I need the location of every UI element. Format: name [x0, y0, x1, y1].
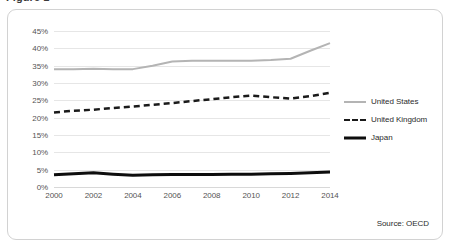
y-tick-label: 30%	[32, 79, 48, 88]
y-axis-labels: 0%5%10%15%20%25%30%35%40%45%	[8, 31, 52, 187]
legend-swatch-icon	[344, 133, 366, 143]
x-tick-label: 2008	[203, 191, 220, 200]
screenshot-page: Figure 1 0%5%10%15%20%25%30%35%40%45% 20…	[0, 0, 451, 248]
y-tick-label: 25%	[32, 96, 48, 105]
series-line-united-states	[54, 43, 330, 69]
x-tick-label: 2010	[242, 191, 259, 200]
series-line-japan	[54, 172, 330, 175]
legend-label: United Kingdom	[371, 115, 427, 124]
legend-item-united-kingdom[interactable]: United Kingdom	[344, 112, 444, 127]
y-tick-label: 10%	[32, 148, 48, 157]
legend-swatch-icon	[344, 115, 366, 125]
legend-label: United States	[371, 97, 418, 106]
y-tick-label: 45%	[32, 27, 48, 36]
clipped-figure-title: Figure 1	[0, 0, 451, 7]
figure-title-text: Figure 1	[6, 0, 50, 3]
legend-swatch-icon	[344, 97, 366, 107]
chart-card: 0%5%10%15%20%25%30%35%40%45% 20002002200…	[7, 9, 443, 240]
legend-label: Japan	[371, 133, 393, 142]
x-axis-labels: 20002002200420062008201020122014	[54, 189, 330, 203]
x-tick-label: 2014	[321, 191, 338, 200]
series-layer	[54, 31, 330, 187]
y-tick-label: 5%	[37, 165, 48, 174]
plot-area	[54, 31, 330, 187]
x-tick-label: 2000	[45, 191, 62, 200]
y-tick-label: 20%	[32, 113, 48, 122]
legend-item-united-states[interactable]: United States	[344, 94, 444, 109]
x-tick-label: 2012	[282, 191, 299, 200]
gridline	[54, 187, 330, 188]
y-tick-label: 35%	[32, 61, 48, 70]
x-tick-label: 2004	[124, 191, 141, 200]
y-tick-label: 15%	[32, 131, 48, 140]
legend-item-japan[interactable]: Japan	[344, 130, 444, 145]
series-line-united-kingdom	[54, 93, 330, 113]
chart-legend: United StatesUnited KingdomJapan	[344, 94, 444, 148]
x-tick-label: 2006	[164, 191, 181, 200]
source-note: Source: OECD	[377, 219, 429, 228]
x-tick-label: 2002	[85, 191, 102, 200]
y-tick-label: 40%	[32, 44, 48, 53]
